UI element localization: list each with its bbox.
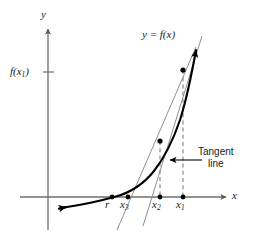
function-curve <box>64 50 196 208</box>
point-label-r: r <box>105 199 109 210</box>
tangent-line-annotation: Tangentline <box>198 146 234 169</box>
function-curve-left-tail <box>59 207 66 208</box>
y-axis-label: y <box>41 9 46 20</box>
point-label-x2: x2 <box>152 199 161 210</box>
point-label-x1: x1 <box>176 199 185 210</box>
point-label-x3: x3 <box>120 199 129 210</box>
function-curve-group <box>59 50 196 209</box>
marker-curve-at-x2 <box>157 138 162 143</box>
curve-label: y = f(x) <box>142 29 175 40</box>
y-axis-tick-label-subscript: 1 <box>22 70 26 79</box>
tangent-annotation-line1: Tangent <box>198 146 234 157</box>
y-axis-tick-label-close: ) <box>25 65 29 77</box>
point-label-x1-subscript: 1 <box>181 203 185 212</box>
point-label-x3-subscript: 3 <box>125 203 129 212</box>
curve-label-close: ) <box>171 28 175 40</box>
point-label-r-main: r <box>105 198 109 210</box>
marker-curve-at-x1 <box>180 67 185 72</box>
marker-r <box>110 195 115 200</box>
y-axis-tick-label: f(x1) <box>10 66 29 77</box>
tangent-annotation-line2: line <box>208 158 224 169</box>
point-label-x2-subscript: 2 <box>157 203 161 212</box>
y-axis-tick-label-main: f(x <box>10 65 22 77</box>
newton-method-figure: y x f(x1) y = f(x) r x3 x2 x1 Tangentlin… <box>0 0 255 242</box>
curve-label-main: y = f(x <box>142 28 171 40</box>
x-axis-label: x <box>232 190 237 201</box>
